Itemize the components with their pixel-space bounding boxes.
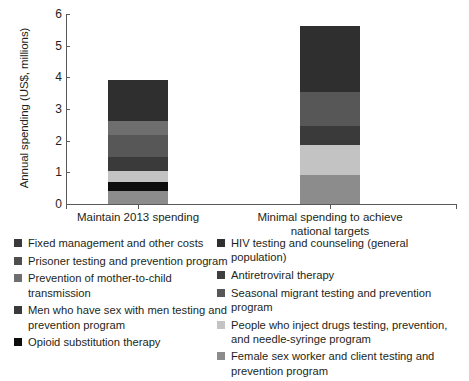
bar-segment bbox=[108, 157, 168, 171]
legend-swatch-icon bbox=[14, 257, 22, 265]
x-tick-mark bbox=[138, 204, 139, 209]
legend-item-label: Antiretroviral therapy bbox=[231, 269, 334, 281]
bar-segment bbox=[108, 135, 168, 157]
legend-item[interactable]: Female sex worker and client testing and… bbox=[217, 349, 465, 377]
legend-item-label: People who inject drugs testing, prevent… bbox=[231, 319, 447, 345]
legend-swatch-icon bbox=[217, 321, 225, 329]
y-tick-mark bbox=[66, 172, 70, 173]
y-tick-label: 2 bbox=[22, 136, 62, 146]
x-axis-line bbox=[66, 204, 456, 205]
legend-swatch-icon bbox=[14, 239, 22, 247]
y-tick-mark bbox=[66, 109, 70, 110]
bar-segment bbox=[108, 171, 168, 181]
bar-segment bbox=[108, 191, 168, 204]
bar-segment bbox=[300, 126, 360, 145]
legend-item-label: Fixed management and other costs bbox=[28, 237, 203, 249]
y-tick-mark bbox=[66, 77, 70, 78]
legend-item-label: HIV testing and counseling (general popu… bbox=[231, 237, 408, 263]
legend-column-right: HIV testing and counseling (general popu… bbox=[217, 236, 465, 381]
y-tick-mark bbox=[66, 141, 70, 142]
legend-swatch-icon bbox=[217, 289, 225, 297]
chart-plot-area: Annual spending (US$, millions) 0123456 … bbox=[0, 0, 469, 236]
y-tick-mark bbox=[66, 46, 70, 47]
bar-segment bbox=[300, 175, 360, 204]
y-tick-label: 4 bbox=[22, 72, 62, 82]
legend-item-label: Prisoner testing and prevention program bbox=[28, 255, 228, 267]
y-tick-label: 5 bbox=[22, 41, 62, 51]
legend-column-left: Fixed management and other costsPrisoner… bbox=[14, 236, 228, 353]
legend-item[interactable]: Prevention of mother-to-child transmissi… bbox=[14, 271, 228, 299]
legend-item-label: Prevention of mother-to-child transmissi… bbox=[28, 272, 172, 298]
legend-item[interactable]: Fixed management and other costs bbox=[14, 236, 228, 250]
y-tick-mark bbox=[66, 14, 70, 15]
legend-item-label: Opioid substitution therapy bbox=[28, 336, 160, 348]
bar-maintain-2013-spending bbox=[108, 14, 168, 204]
y-tick-label: 0 bbox=[22, 199, 62, 209]
legend-swatch-icon bbox=[14, 338, 22, 346]
bar-segment bbox=[108, 182, 168, 191]
legend-item[interactable]: People who inject drugs testing, prevent… bbox=[217, 318, 465, 346]
bar-segment bbox=[300, 92, 360, 127]
legend-swatch-icon bbox=[14, 306, 22, 314]
legend-item-label: Female sex worker and client testing and… bbox=[231, 350, 434, 376]
x-tick-label: Maintain 2013 spending bbox=[48, 211, 228, 225]
chart-legend: Fixed management and other costsPrisoner… bbox=[0, 236, 469, 360]
legend-item[interactable]: HIV testing and counseling (general popu… bbox=[217, 236, 465, 264]
legend-swatch-icon bbox=[14, 274, 22, 282]
bar-segment bbox=[108, 121, 168, 135]
legend-item[interactable]: Opioid substitution therapy bbox=[14, 335, 228, 349]
legend-item-label: Men who have sex with men testing and pr… bbox=[28, 304, 227, 330]
legend-item[interactable]: Seasonal migrant testing and prevention … bbox=[217, 286, 465, 314]
legend-swatch-icon bbox=[217, 352, 225, 360]
legend-item[interactable]: Men who have sex with men testing and pr… bbox=[14, 303, 228, 331]
y-tick-label: 1 bbox=[22, 167, 62, 177]
y-tick-label: 6 bbox=[22, 9, 62, 19]
x-tick-label: Minimal spending to achieve national tar… bbox=[240, 211, 420, 238]
bar-minimal-spending-national-targets bbox=[300, 14, 360, 204]
legend-item[interactable]: Prisoner testing and prevention program bbox=[14, 254, 228, 268]
y-tick-label: 3 bbox=[22, 104, 62, 114]
legend-swatch-icon bbox=[217, 271, 225, 279]
bar-segment bbox=[108, 80, 168, 121]
legend-swatch-icon bbox=[217, 239, 225, 247]
x-tick-mark bbox=[330, 204, 331, 209]
bar-segment bbox=[300, 26, 360, 92]
legend-item[interactable]: Antiretroviral therapy bbox=[217, 268, 465, 282]
bar-segment bbox=[300, 145, 360, 174]
legend-item-label: Seasonal migrant testing and prevention … bbox=[231, 287, 431, 313]
x-axis-end-tick bbox=[456, 204, 457, 209]
x-axis-end-tick bbox=[66, 204, 67, 209]
